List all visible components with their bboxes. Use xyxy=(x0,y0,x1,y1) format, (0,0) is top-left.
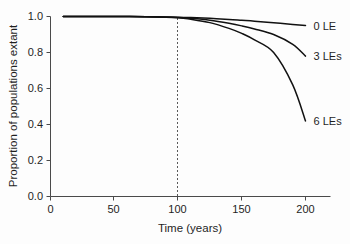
chart-figure: 0.0 0.2 0.4 0.6 0.8 1.0 0 50 100 150 200… xyxy=(0,0,350,244)
x-tick-label-3: 150 xyxy=(232,203,250,215)
y-tick-label-3: 0.6 xyxy=(28,82,43,94)
x-tick-label-1: 50 xyxy=(107,203,119,215)
y-tick-label-2: 0.4 xyxy=(28,118,43,130)
y-axis-title: Proportion of populations extant xyxy=(7,24,19,187)
series-label-6-les: 6 LEs xyxy=(314,115,343,127)
y-tick-label-5: 1.0 xyxy=(28,10,43,22)
y-tick-label-0: 0.0 xyxy=(28,190,43,202)
series-label-3-les: 3 LEs xyxy=(314,50,343,62)
y-tick-label-4: 0.8 xyxy=(28,46,43,58)
y-tick-label-1: 0.2 xyxy=(28,154,43,166)
x-tick-label-0: 0 xyxy=(47,203,53,215)
x-tick-label-4: 200 xyxy=(296,203,314,215)
x-tick-label-2: 100 xyxy=(168,203,186,215)
series-label-0-le: 0 LE xyxy=(314,20,337,32)
x-axis-title: Time (years) xyxy=(158,222,222,234)
chart-plot-area: 0.0 0.2 0.4 0.6 0.8 1.0 0 50 100 150 200… xyxy=(0,0,350,244)
